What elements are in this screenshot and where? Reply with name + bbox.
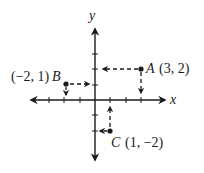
point-a-name: A [145,61,155,76]
point-c: C (1, −2) [100,107,164,151]
point-b: (−2, 1) B [11,69,89,95]
y-axis-label: y [87,8,96,23]
x-axis-label: x [169,92,177,107]
point-a-dot [138,66,143,71]
point-a-coords: (3, 2) [159,61,190,77]
point-b-coords: (−2, 1) [11,69,50,85]
coordinate-plane: y x A (3, 2) (−2, 1) B C (1, −2) [0,0,204,173]
point-b-dot [63,81,68,86]
point-c-coords: (1, −2) [125,135,164,151]
point-a: A (3, 2) [103,61,190,93]
point-c-dot [107,128,112,133]
point-c-name: C [111,135,121,150]
point-b-name: B [52,69,61,84]
